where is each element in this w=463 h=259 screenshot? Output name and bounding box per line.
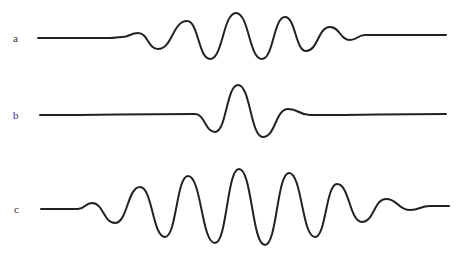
waveform-c bbox=[41, 169, 449, 245]
waveform-b bbox=[40, 85, 446, 137]
waveform-a bbox=[38, 13, 446, 59]
waveform-canvas bbox=[0, 0, 463, 259]
waveform-figure: a b c bbox=[0, 0, 463, 259]
